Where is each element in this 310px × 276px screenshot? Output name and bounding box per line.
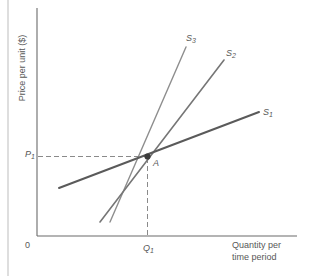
equilibrium-point-label: A	[153, 158, 159, 169]
supply-curve-s3	[110, 47, 186, 222]
x-axis-title: Quantity per time period	[232, 240, 281, 263]
equilibrium-point-marker	[144, 153, 150, 159]
supply-curve-s1	[59, 112, 259, 188]
curve-label-s1-subscript: 1	[269, 111, 273, 118]
curve-label-s2-subscript: 2	[232, 52, 236, 59]
price-label-subscript: 1	[31, 153, 35, 160]
y-axis-title: Price per unit ($)	[17, 8, 27, 128]
supply-curve-s2	[100, 60, 224, 222]
x-axis-title-line2: time period	[232, 252, 281, 264]
curve-label-s3: S3	[186, 33, 196, 46]
x-axis-title-line1: Quantity per	[232, 240, 281, 252]
y-axis-tick-label-p1: P1	[25, 149, 35, 162]
origin-label: 0	[25, 240, 30, 251]
supply-curve-plot	[0, 0, 310, 276]
quantity-label-subscript: 1	[150, 247, 154, 254]
curve-label-s1: S1	[263, 107, 273, 120]
x-axis-tick-label-q1: Q1	[143, 243, 154, 256]
supply-curve-figure: Price per unit ($) Quantity per time per…	[0, 0, 310, 276]
curve-label-s3-subscript: 3	[192, 37, 196, 44]
curve-label-s2: S2	[226, 48, 236, 61]
